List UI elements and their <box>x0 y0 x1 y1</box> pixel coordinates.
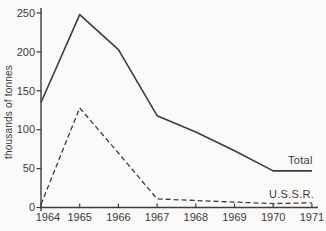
x-tick-label: 1967 <box>145 211 169 223</box>
x-tick-label: 1969 <box>222 211 246 223</box>
series-line-total <box>41 15 312 171</box>
y-tick-label: 0 <box>29 201 35 213</box>
y-axis-title: thousands of tonnes <box>3 65 14 159</box>
y-tick-label: 250 <box>17 7 35 19</box>
line-chart: thousands of tonnes 050100150200250 1964… <box>0 0 326 231</box>
chart-canvas: thousands of tonnes 050100150200250 1964… <box>0 0 326 231</box>
plot-lines <box>41 15 312 205</box>
x-axis: 19641965196619671968196919701971 <box>36 204 324 223</box>
x-tick-label: 1968 <box>184 211 208 223</box>
x-tick-label: 1971 <box>300 211 324 223</box>
y-tick-label: 100 <box>17 123 35 135</box>
x-tick-label: 1966 <box>106 211 130 223</box>
y-tick-label: 200 <box>17 46 35 58</box>
x-tick-label: 1964 <box>36 211 60 223</box>
x-tick-label: 1970 <box>261 211 285 223</box>
y-tick-label: 50 <box>23 162 35 174</box>
x-tick-label: 1965 <box>67 211 91 223</box>
series-label-total: Total <box>288 154 313 166</box>
y-axis: 050100150200250 <box>17 7 42 214</box>
series-label-ussr: U.S.S.R. <box>269 188 314 200</box>
y-tick-label: 150 <box>17 85 35 97</box>
